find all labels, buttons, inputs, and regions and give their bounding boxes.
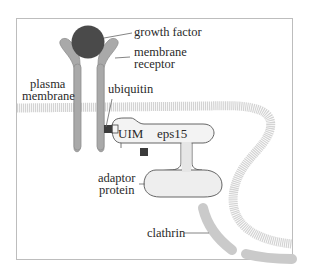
label-membrane-receptor-2: receptor [134,57,176,71]
label-adaptor-protein-2: protein [99,183,135,197]
adaptor-protein [144,170,222,197]
label-plasma-membrane-2: membrane [22,89,75,103]
label-growth-factor: growth factor [134,25,203,39]
ubiquitin-marker-receptor [104,125,112,133]
clathrin-coat-arc-2 [246,254,292,259]
growth-factor [72,26,105,59]
label-ubiquitin: ubiquitin [108,82,154,96]
label-uim: UIM [118,126,144,141]
endocytosis-diagram: growth factor membrane receptor plasma m… [0,0,309,273]
label-eps15: eps15 [157,126,187,141]
label-clathrin: clathrin [147,226,186,240]
ubiquitin-marker-eps15 [140,148,148,156]
